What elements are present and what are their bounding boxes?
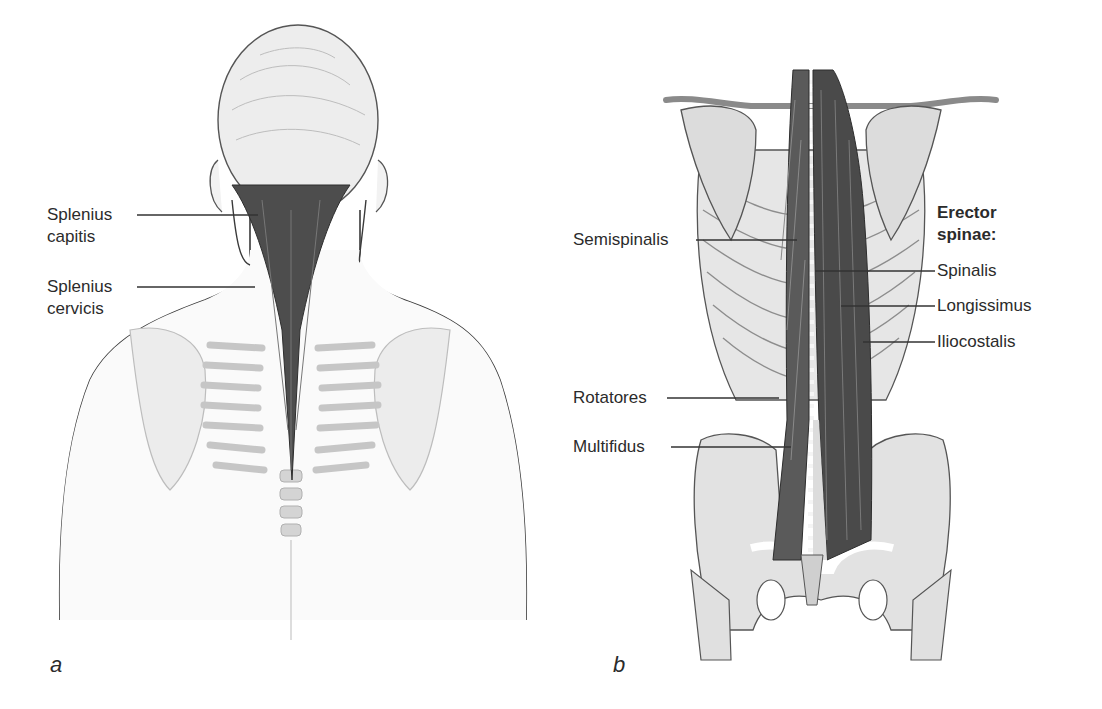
left-obturator <box>757 580 785 620</box>
panel-letter-b: b <box>613 652 625 678</box>
label-line: Splenius <box>47 276 112 298</box>
heading-line: Erector <box>937 202 997 224</box>
label-multifidus: Multifidus <box>573 436 645 458</box>
heading-line: spinae: <box>937 224 997 246</box>
panel-b: Semispinalis Rotatores Multifidus Erecto… <box>551 0 1102 709</box>
label-longissimus: Longissimus <box>937 295 1032 317</box>
label-splenius-capitis: Splenius capitis <box>47 204 112 248</box>
label-splenius-cervicis: Splenius cervicis <box>47 276 112 320</box>
panel-a: Splenius capitis Splenius cervicis a <box>0 0 551 709</box>
right-ear <box>376 160 388 212</box>
label-line: Splenius <box>47 204 112 226</box>
label-line: capitis <box>47 226 112 248</box>
right-obturator <box>859 580 887 620</box>
label-iliocostalis: Iliocostalis <box>937 331 1015 353</box>
label-erector-spinae-heading: Erector spinae: <box>937 202 997 246</box>
left-ear <box>210 160 222 212</box>
upper-back-illustration <box>0 0 551 709</box>
panel-letter-a: a <box>50 652 62 678</box>
deep-back-illustration <box>551 0 1102 709</box>
label-semispinalis: Semispinalis <box>573 229 668 251</box>
label-rotatores: Rotatores <box>573 387 647 409</box>
label-spinalis: Spinalis <box>937 260 997 282</box>
label-line: cervicis <box>47 298 112 320</box>
